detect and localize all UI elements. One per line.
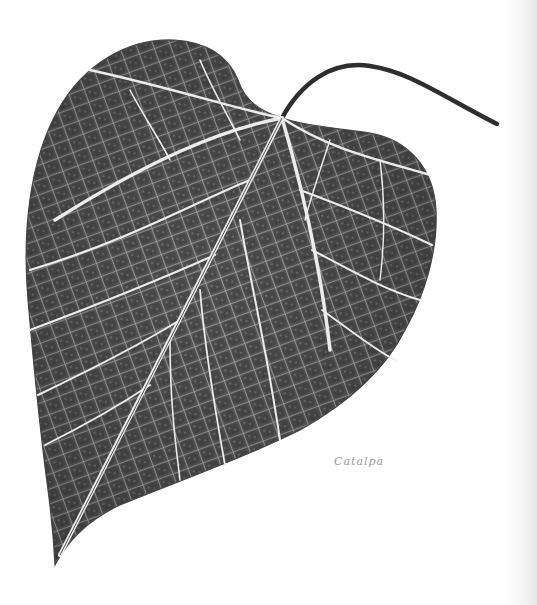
illustration-page: Catalpa [0, 0, 537, 605]
catalpa-leaf-drawing [0, 0, 537, 605]
species-caption: Catalpa [334, 455, 384, 468]
leaf-stem [282, 65, 497, 124]
